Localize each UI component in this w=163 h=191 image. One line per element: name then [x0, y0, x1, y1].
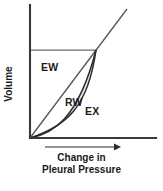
region-label-ew: EW: [41, 61, 58, 73]
x-axis-title-line-2: Pleural Pressure: [0, 164, 163, 176]
x-axis-title: Change in Pleural Pressure: [0, 152, 163, 176]
y-axis-title: Volume: [3, 58, 15, 110]
x-axis-direction-arrow-head: [114, 144, 121, 151]
region-label-ex: EX: [85, 105, 99, 117]
x-axis-title-line-1: Change in: [57, 152, 105, 163]
pressure-volume-loop-figure: EW RW EX Volume Change in Pleural Pressu…: [0, 0, 163, 191]
compliance-diagonal-line: [30, 9, 127, 138]
region-label-rw: RW: [65, 96, 83, 108]
